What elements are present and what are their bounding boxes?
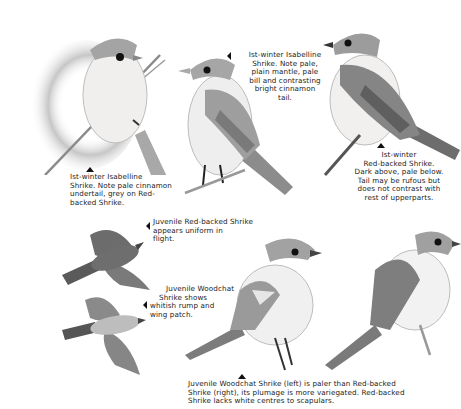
woodchat-shrike-juvenile-perched-illustration [180, 230, 330, 375]
red-backed-shrike-juvenile-flight-illustration [60, 220, 155, 295]
pointer-arrow-icon [146, 222, 150, 230]
isabelline-shrike-front-illustration [15, 15, 175, 175]
red-backed-shrike-juvenile-perched-illustration [320, 225, 461, 375]
red-backed-1st-winter-caption: Ist-winter Red-backed Shrike. Dark above… [338, 151, 460, 203]
isabelline-front-caption: Ist-winter Isabelline Shrike. Note pale … [70, 173, 172, 207]
woodchat-vs-red-backed-caption: Juvenile Woodchat Shrike (left) is paler… [188, 380, 405, 406]
woodchat-shrike-juvenile-flight-illustration [60, 290, 155, 375]
pointer-arrow-icon [143, 301, 147, 309]
illustration-plate: Ist-winter Isabelline Shrike. Note pale … [0, 0, 461, 409]
pointer-arrow-icon [377, 143, 385, 148]
